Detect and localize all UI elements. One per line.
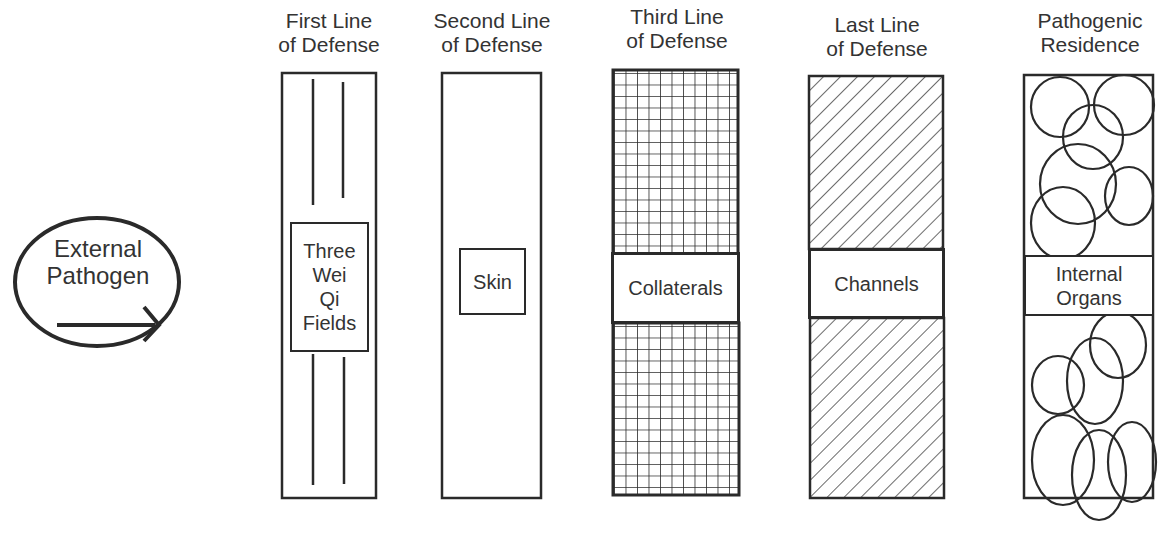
third-line-heading: Third Line of Defense <box>597 5 757 53</box>
channels-label: Channels <box>808 248 945 319</box>
hatch-pattern-top <box>809 76 943 249</box>
three-wei-qi-fields-label: Three Wei Qi Fields <box>290 222 369 352</box>
collaterals-label: Collaterals <box>611 252 740 324</box>
first-line-heading: First Line of Defense <box>249 9 409 57</box>
external-pathogen-line-1: External <box>47 235 150 262</box>
residence-heading: Pathogenic Residence <box>1010 9 1170 57</box>
second-line-heading: Second Line of Defense <box>412 9 572 57</box>
diagram-canvas <box>0 0 1170 545</box>
external-pathogen-label: External Pathogen <box>30 234 166 290</box>
external-pathogen-line-2: Pathogen <box>47 262 150 289</box>
skin-label: Skin <box>459 248 526 315</box>
grid-pattern-top <box>613 70 738 254</box>
last-line-heading: Last Line of Defense <box>797 13 957 61</box>
internal-organs-label: Internal Organs <box>1024 255 1154 316</box>
grid-pattern-bottom <box>613 323 739 495</box>
hatch-pattern-bottom <box>810 318 944 498</box>
